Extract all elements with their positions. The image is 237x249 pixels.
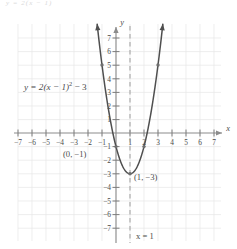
- y-tick-label: −5: [103, 197, 111, 206]
- point-marker-2-neg1: [142, 145, 145, 148]
- x-tick-label: −4: [56, 138, 64, 147]
- point-marker-0-neg1: [114, 145, 117, 148]
- y-tick-label: −3: [103, 170, 111, 179]
- vertex-label: (1, −3): [134, 172, 158, 182]
- x-tick-label: 5: [184, 138, 188, 147]
- equation-text: y = 2(x − 1): [23, 82, 69, 92]
- x-tick-label: 7: [212, 138, 216, 147]
- y-tick-label: −7: [103, 224, 111, 233]
- point-marker-neg1-5: [100, 63, 103, 66]
- equation-annotation: y = 2(x − 1)2 − 3: [23, 80, 87, 92]
- point-marker-3-5: [156, 63, 159, 66]
- y-tick-label: −6: [103, 210, 111, 219]
- x-axis-arrow: [216, 130, 222, 135]
- axis-of-symmetry-label: x = 1: [136, 231, 154, 241]
- x-tick-label: −7: [14, 138, 22, 147]
- y-tick-label: 3: [107, 88, 111, 97]
- y-tick-label: −1: [103, 142, 111, 151]
- x-tick-label: 4: [170, 138, 174, 147]
- top-ghost-text: y = 2(x − 1): [6, 0, 52, 7]
- x-axis-label: x: [225, 124, 230, 133]
- x-tick-label: −3: [70, 138, 78, 147]
- y-tick-label: 4: [107, 75, 111, 84]
- x-tick-label: −2: [84, 138, 92, 147]
- parabola-figure: y = 2(x − 1): [0, 0, 237, 249]
- y-tick-label: −4: [103, 183, 111, 192]
- equation-tail: − 3: [72, 82, 87, 92]
- y-tick-label: 6: [107, 47, 111, 56]
- y-tick-label: −2: [103, 156, 111, 165]
- x-tick-label: −6: [28, 138, 36, 147]
- y-axis-arrow: [113, 27, 118, 33]
- y-tick-label: 5: [107, 61, 111, 70]
- x-tick-label: 6: [198, 138, 202, 147]
- vertex-marker: [128, 172, 131, 175]
- y-intercept-label: (0, −1): [63, 149, 87, 159]
- x-tick-label: −5: [42, 138, 50, 147]
- graph-canvas: −7 −6 −5 −4 −3 −2 −1 1 2 3 4 5 6 7 7 6 5…: [0, 0, 237, 249]
- y-axis-label: y: [119, 18, 124, 27]
- axis-lines: [14, 27, 222, 243]
- y-tick-label: 7: [107, 34, 111, 43]
- y-tick-labels-negative: −1 −2 −3 −4 −5 −6 −7: [103, 142, 111, 233]
- x-tick-label: 3: [156, 138, 160, 147]
